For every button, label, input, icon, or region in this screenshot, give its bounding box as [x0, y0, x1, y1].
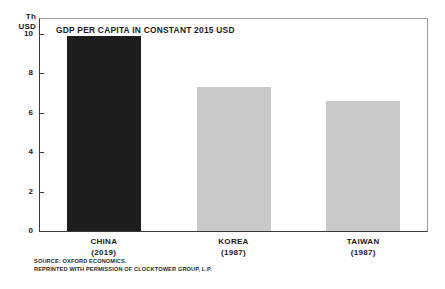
source-line-2: REPRINTED WITH PERMISSION OF CLOCKTOWER … [34, 266, 212, 274]
y-axis-tick-label: 2 [0, 188, 33, 196]
y-axis-tick-label: 8 [0, 69, 33, 77]
y-axis-tick-label: 10 [0, 30, 33, 38]
y-axis-tick-label: 4 [0, 148, 33, 156]
category-year: (1987) [313, 248, 413, 259]
category-name: TAIWAN [313, 237, 413, 248]
y-axis-tick-label: 6 [0, 109, 33, 117]
category-label-korea: KOREA(1987) [184, 237, 284, 258]
y-axis-unit-line-1: Th [0, 12, 36, 22]
category-year: (2019) [54, 248, 154, 259]
chart-screenshot: Th USD GDP PER CAPITA IN CONSTANT 2015 U… [0, 0, 445, 289]
source-line-1: SOURCE: OXFORD ECONOMICS. [34, 258, 212, 266]
bar-series [39, 18, 428, 231]
category-name: CHINA [54, 237, 154, 248]
category-name: KOREA [184, 237, 284, 248]
category-label-china: CHINA(2019) [54, 237, 154, 258]
category-label-taiwan: TAIWAN(1987) [313, 237, 413, 258]
source-note: SOURCE: OXFORD ECONOMICS. REPRINTED WITH… [34, 258, 212, 273]
bar-taiwan [326, 101, 400, 231]
bar-korea [197, 87, 271, 231]
category-year: (1987) [184, 248, 284, 259]
bar-china [67, 36, 141, 231]
y-axis-tick-label: 0 [0, 227, 33, 235]
